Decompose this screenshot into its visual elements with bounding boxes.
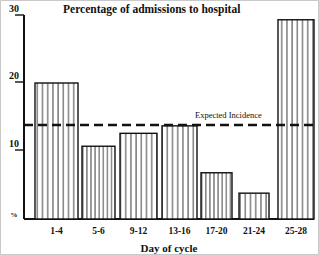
bar-rect[interactable] xyxy=(278,20,314,219)
bar-25-28[interactable] xyxy=(278,20,314,219)
bar-rect[interactable] xyxy=(162,126,197,219)
bar-17-20[interactable] xyxy=(201,173,232,219)
bar-1-4[interactable] xyxy=(35,83,78,219)
bar-rect[interactable] xyxy=(35,83,78,219)
bar-rect[interactable] xyxy=(201,173,232,219)
bar-5-6[interactable] xyxy=(82,146,115,219)
chart-figure: Percentage of admissions to hospital 30 … xyxy=(0,0,319,255)
bar-rect[interactable] xyxy=(120,133,157,219)
x-tick-label-13-16: 13-16 xyxy=(168,226,190,236)
bar-13-16[interactable] xyxy=(162,126,197,219)
x-tick-label-25-28: 25-28 xyxy=(285,226,307,236)
bar-rect[interactable] xyxy=(239,193,269,219)
bar-chart-canvas: Percentage of admissions to hospital 30 … xyxy=(0,0,319,255)
x-tick-label-9-12: 9-12 xyxy=(130,226,148,236)
y-tick-label-10: 10 xyxy=(9,138,19,149)
bar-9-12[interactable] xyxy=(120,133,157,219)
x-tick-label-17-20: 17-20 xyxy=(205,226,227,236)
bar-21-24[interactable] xyxy=(239,193,269,219)
x-tick-label-1-4: 1-4 xyxy=(50,226,63,236)
expected-incidence-label: Expected Incidence xyxy=(195,110,262,120)
y-tick-label-30: 30 xyxy=(9,3,19,14)
bar-rect[interactable] xyxy=(82,146,115,219)
y-tick-label-20: 20 xyxy=(9,70,19,81)
chart-title: Percentage of admissions to hospital xyxy=(63,3,240,16)
x-axis-title: Day of cycle xyxy=(141,242,198,254)
x-tick-label-5-6: 5-6 xyxy=(92,226,105,236)
y-axis-unit-label: % xyxy=(11,211,18,219)
x-tick-label-21-24: 21-24 xyxy=(243,226,265,236)
